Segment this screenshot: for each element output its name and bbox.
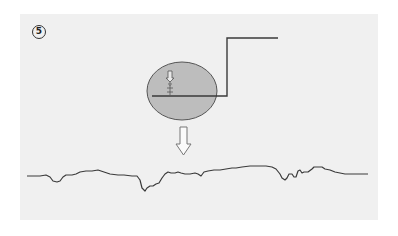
zoom-ellipse bbox=[147, 62, 217, 120]
profile-trace bbox=[27, 166, 368, 191]
diagram-canvas bbox=[0, 0, 398, 236]
down-arrow-icon bbox=[176, 127, 191, 155]
